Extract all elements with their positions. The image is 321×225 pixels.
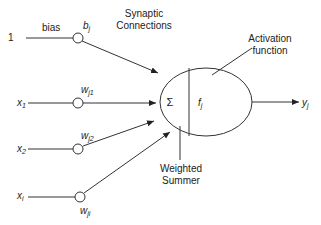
bias-weight-node xyxy=(73,33,83,43)
input-x2: x2 wj2 xyxy=(16,121,154,155)
synaptic-label-line2: Connections xyxy=(116,20,172,31)
output-label: yj xyxy=(301,97,309,110)
synaptic-label-line1: Synaptic xyxy=(125,8,163,19)
input-xi: xi wji xyxy=(16,132,170,218)
weight-node-ji xyxy=(75,192,85,202)
weight-ji-label: wji xyxy=(80,205,91,218)
bias-input-label: 1 xyxy=(8,32,14,43)
weight-j1-label: wj1 xyxy=(81,84,94,97)
input-x1-label: x1 xyxy=(16,97,26,109)
output: yj xyxy=(252,97,309,110)
input-xi-label: xi xyxy=(16,190,24,202)
sum-symbol: Σ xyxy=(167,96,174,108)
neuron-diagram: 1 bias bj x1 wj1 x2 wj2 xi wji Synaptic … xyxy=(0,0,321,225)
neuron-body: Σ fj xyxy=(160,68,252,136)
input-x2-label: x2 xyxy=(16,143,26,155)
activation-label-line1: Activation xyxy=(248,33,291,44)
bias-label: bias xyxy=(42,22,60,33)
weight-node-j1 xyxy=(73,98,83,108)
summer-label-line1: Weighted xyxy=(160,163,202,174)
weight-j2-label: wj2 xyxy=(81,130,94,143)
weight-node-j2 xyxy=(73,144,83,154)
activation-label-line2: function xyxy=(252,45,287,56)
input-x1: x1 wj1 xyxy=(16,84,156,109)
summer-label-line2: Summer xyxy=(162,175,200,186)
bias-weight-label: bj xyxy=(83,20,91,33)
